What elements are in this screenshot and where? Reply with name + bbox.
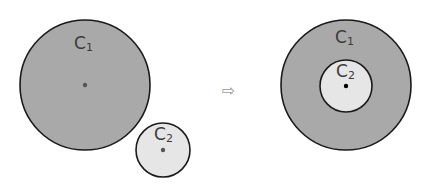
left-large-circle: C1 (20, 20, 150, 150)
circles-diagram: C1 C2 ⇨ C1 C2 (0, 0, 431, 185)
center-dot-c2-right (344, 84, 348, 88)
center-dot-c2-left (161, 148, 165, 152)
transform-arrow-icon: ⇨ (222, 81, 235, 100)
right-small-circle: C2 (320, 60, 372, 112)
left-small-circle: C2 (136, 123, 190, 177)
center-dot-c1-left (83, 83, 87, 87)
